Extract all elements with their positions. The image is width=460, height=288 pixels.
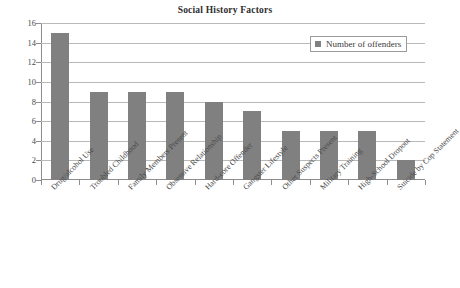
y-axis-tick-label: 16 [6,19,36,28]
x-axis-tick-mark [233,180,234,185]
x-axis-tick-mark [387,180,388,185]
y-axis-tick-label: 8 [6,98,36,107]
y-axis-tick-label: 2 [6,156,36,165]
x-axis-tick-mark [348,180,349,185]
y-axis-tick-label: 10 [6,78,36,87]
x-axis-tick-mark [425,180,426,185]
bar [51,33,69,180]
x-axis-tick-mark [310,180,311,185]
x-axis-tick-mark [118,180,119,185]
legend: Number of offenders [310,36,407,52]
x-axis-labels: Drug/alcohol UseTroubled ChildhoodFamily… [0,186,450,286]
legend-square-marker-icon [315,41,321,47]
y-axis-tick-label: 12 [6,58,36,67]
y-axis-tick-label: 6 [6,117,36,126]
x-axis-tick-mark [195,180,196,185]
y-axis-tick-label: 0 [6,176,36,185]
x-axis-tick-mark [41,180,42,185]
legend-label: Number of offenders [326,40,401,49]
y-axis-tick-label: 14 [6,39,36,48]
x-axis-tick-mark [156,180,157,185]
x-axis-tick-mark [271,180,272,185]
x-axis-tick-mark [79,180,80,185]
y-axis-tick-label: 4 [6,137,36,146]
chart-title: Social History Factors [0,5,450,15]
